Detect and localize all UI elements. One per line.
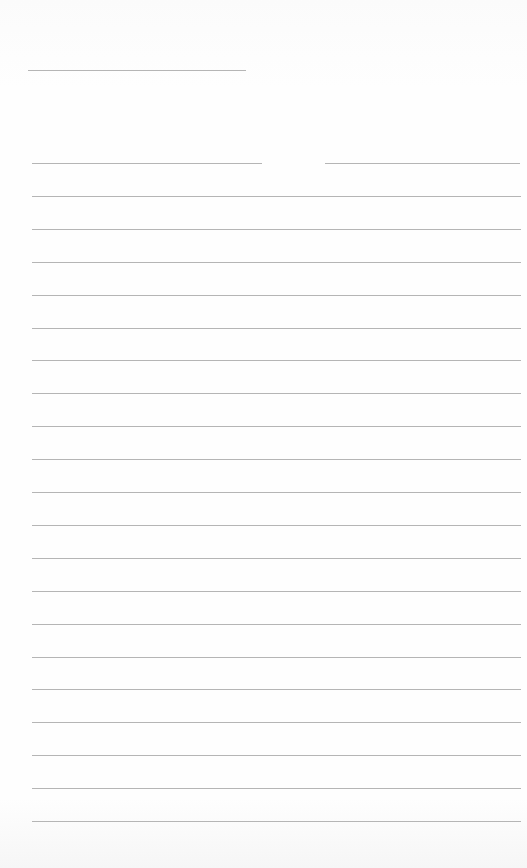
ruled-line (32, 755, 521, 756)
header-line (28, 70, 246, 71)
ruled-line (32, 262, 521, 263)
ruled-line (32, 328, 521, 329)
ruled-line (32, 525, 521, 526)
ruled-line (32, 459, 521, 460)
ruled-line (32, 591, 521, 592)
ruled-line (32, 360, 521, 361)
ruled-line (32, 689, 521, 690)
ruled-line (32, 163, 262, 164)
ruled-line (32, 229, 521, 230)
ruled-line (32, 196, 521, 197)
ruled-line (325, 163, 520, 164)
ruled-line (32, 393, 521, 394)
ruled-line (32, 624, 521, 625)
ruled-line (32, 295, 521, 296)
ruled-line (32, 657, 521, 658)
ruled-line (32, 426, 521, 427)
ruled-line (32, 492, 521, 493)
ruled-line (32, 722, 521, 723)
lined-paper-page (0, 0, 527, 868)
ruled-line (32, 788, 521, 789)
ruled-line (32, 558, 521, 559)
ruled-line (32, 821, 521, 822)
